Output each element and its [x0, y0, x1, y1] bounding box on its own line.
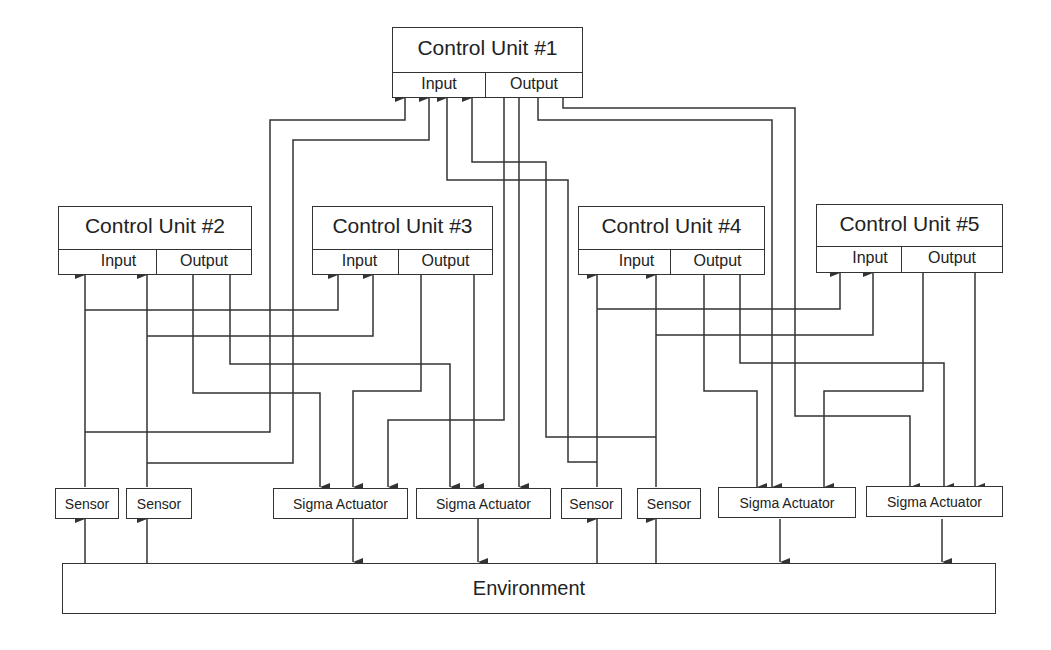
actuator-label: Sigma Actuator: [417, 489, 550, 518]
input-port: Input: [579, 250, 671, 274]
input-port: Input: [313, 250, 399, 274]
input-port: Input: [817, 247, 902, 272]
control-unit-title: Control Unit #3: [313, 214, 492, 238]
output-port: Output: [902, 247, 1002, 272]
sensor-3: Sensor: [561, 488, 622, 519]
control-unit-ports: Input Output: [313, 249, 492, 274]
wire-cu4-out1: [704, 274, 757, 487]
sigma-actuator-2: Sigma Actuator: [416, 488, 551, 519]
wire-cu3-out1: [353, 274, 421, 487]
wire-sensor3-to-cu5: [597, 273, 840, 309]
control-unit-5: Control Unit #5 Input Output: [816, 204, 1003, 273]
control-unit-ports: Input Output: [393, 72, 582, 97]
control-unit-title: Control Unit #4: [579, 214, 764, 238]
environment: Environment: [62, 563, 996, 614]
control-unit-title: Control Unit #1: [393, 36, 582, 60]
wire-sensor3-to-cu1: [447, 98, 597, 462]
wire-sensor2-to-cu3: [147, 275, 373, 336]
sensor-4: Sensor: [637, 488, 701, 519]
input-port: Input: [393, 73, 486, 97]
control-unit-ports: Input Output: [817, 246, 1002, 272]
actuator-label: Sigma Actuator: [274, 489, 407, 518]
control-unit-3: Control Unit #3 Input Output: [312, 206, 493, 275]
sensor-label: Sensor: [562, 489, 621, 518]
control-unit-title: Control Unit #5: [817, 212, 1002, 236]
wire-cu1-out1: [388, 97, 504, 487]
output-port: Output: [486, 73, 582, 97]
control-unit-title: Control Unit #2: [59, 214, 251, 238]
control-unit-4: Control Unit #4 Input Output: [578, 206, 765, 275]
wire-sensor2-to-cu1: [147, 98, 429, 463]
control-unit-2: Control Unit #2 Input Output: [58, 206, 252, 275]
sigma-actuator-1: Sigma Actuator: [273, 488, 408, 519]
wire-cu2-out2: [230, 274, 450, 487]
sigma-actuator-4: Sigma Actuator: [866, 486, 1003, 517]
sensor-label: Sensor: [638, 489, 700, 518]
output-port: Output: [157, 250, 251, 274]
sensor-label: Sensor: [56, 489, 118, 518]
output-port: Output: [399, 250, 492, 274]
output-port: Output: [671, 250, 764, 274]
wire-sensor1-to-cu3: [85, 275, 338, 310]
actuator-label: Sigma Actuator: [867, 487, 1002, 516]
sensor-1: Sensor: [55, 488, 119, 519]
sensor-2: Sensor: [126, 488, 192, 519]
control-unit-ports: Input Output: [59, 249, 251, 274]
sensor-label: Sensor: [127, 489, 191, 518]
wire-cu4-out2: [740, 274, 944, 487]
sigma-actuator-3: Sigma Actuator: [718, 487, 856, 518]
actuator-label: Sigma Actuator: [719, 488, 855, 517]
environment-label: Environment: [63, 564, 995, 613]
wire-cu1-to-act2: [504, 97, 519, 420]
wire-cu1-out4: [563, 97, 910, 487]
wire-cu2-out1: [193, 274, 320, 487]
wire-cu1-out3: [538, 97, 772, 487]
input-port: Input: [59, 250, 157, 274]
control-unit-1: Control Unit #1 Input Output: [392, 27, 583, 98]
control-unit-ports: Input Output: [579, 249, 764, 274]
